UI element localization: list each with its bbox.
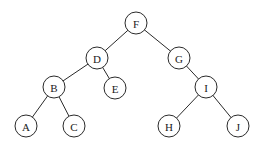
tree-node-d: D xyxy=(86,47,108,69)
node-label: A xyxy=(22,121,30,133)
tree-edges xyxy=(26,23,238,126)
node-label: J xyxy=(236,121,241,133)
node-label: C xyxy=(70,121,77,133)
tree-node-e: E xyxy=(104,77,126,99)
tree-node-i: I xyxy=(195,76,217,98)
tree-node-h: H xyxy=(158,115,180,137)
tree-node-j: J xyxy=(227,115,249,137)
tree-node-f: F xyxy=(125,12,147,34)
tree-node-g: G xyxy=(168,47,190,69)
node-label: H xyxy=(165,121,173,133)
tree-node-a: A xyxy=(15,115,37,137)
node-label: E xyxy=(112,83,119,95)
tree-nodes: FDGBEIACHJ xyxy=(15,12,249,137)
node-label: I xyxy=(204,82,208,94)
node-label: B xyxy=(50,82,57,94)
tree-node-c: C xyxy=(63,115,85,137)
node-label: F xyxy=(133,18,139,30)
node-label: D xyxy=(93,53,101,65)
tree-node-b: B xyxy=(43,76,65,98)
node-label: G xyxy=(175,53,183,65)
binary-tree-diagram: FDGBEIACHJ xyxy=(0,0,262,147)
